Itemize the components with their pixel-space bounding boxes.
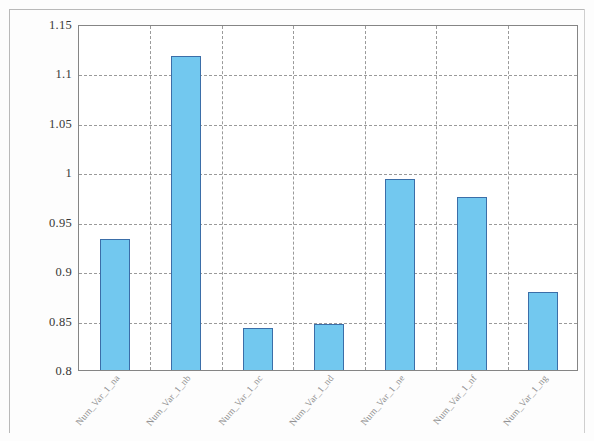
x-tick-label: Num_Var_1_nf: [431, 373, 478, 427]
bar: [385, 179, 415, 370]
y-tick-label: 1.15: [10, 18, 72, 33]
x-tick-label: Num_Var_1_nd: [287, 373, 335, 428]
y-axis-tick-labels: 1.151.11.0510.950.90.850.8: [10, 25, 72, 371]
bar: [243, 328, 273, 371]
bar: [171, 56, 201, 370]
x-tick-label: Num_Var_1_ng: [502, 373, 550, 428]
bar-chart-figure: 1.151.11.0510.950.90.850.8 Num_Var_1_naN…: [0, 0, 594, 441]
x-axis-tick-labels: Num_Var_1_naNum_Var_1_nbNum_Var_1_ncNum_…: [78, 371, 578, 441]
bar: [457, 197, 487, 370]
bars-layer: [79, 26, 577, 370]
y-tick-label: 0.95: [10, 215, 72, 230]
x-tick-label: Num_Var_1_na: [73, 373, 121, 427]
y-tick-label: 0.8: [10, 364, 72, 379]
x-tick-label: Num_Var_1_nc: [216, 373, 264, 427]
bar: [314, 324, 344, 370]
x-tick-label: Num_Var_1_ne: [359, 373, 407, 427]
bar: [528, 292, 558, 370]
plot-area: [78, 25, 578, 371]
page-frame-border-right: [584, 9, 585, 433]
y-tick-label: 1: [10, 166, 72, 181]
y-tick-label: 1.05: [10, 116, 72, 131]
x-tick-label: Num_Var_1_nb: [145, 373, 193, 428]
y-tick-label: 0.85: [10, 314, 72, 329]
y-tick-label: 0.9: [10, 265, 72, 280]
y-tick-label: 1.1: [10, 67, 72, 82]
bar: [100, 239, 130, 370]
